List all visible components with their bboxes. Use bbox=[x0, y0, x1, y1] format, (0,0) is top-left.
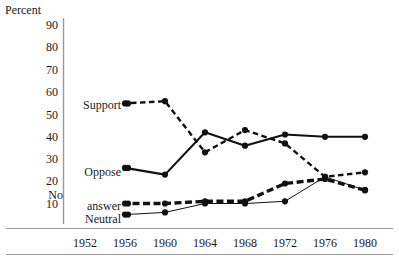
legend-marker bbox=[125, 100, 131, 106]
data-point bbox=[162, 98, 168, 104]
data-point bbox=[202, 149, 208, 155]
data-point bbox=[282, 140, 288, 146]
series-label-no-answer-line1: No bbox=[48, 188, 63, 202]
y-tick-20: 20 bbox=[46, 174, 58, 188]
y-tick-90: 90 bbox=[46, 18, 58, 32]
legend-marker bbox=[125, 165, 131, 171]
series-line bbox=[125, 132, 365, 174]
data-point bbox=[322, 174, 328, 180]
data-point bbox=[242, 200, 248, 206]
data-point bbox=[282, 180, 288, 186]
legend-marker bbox=[125, 200, 131, 206]
data-point bbox=[282, 131, 288, 137]
series-line bbox=[125, 101, 365, 177]
y-tick-60: 60 bbox=[46, 85, 58, 99]
data-point bbox=[202, 200, 208, 206]
data-point bbox=[242, 127, 248, 133]
x-tick-1972: 1972 bbox=[273, 236, 297, 250]
series-line bbox=[125, 177, 365, 215]
series-label-no-answer-line2: answer bbox=[87, 199, 121, 213]
x-tick-1952: 1952 bbox=[73, 236, 97, 250]
series-label-neutral: Neutral bbox=[85, 212, 122, 226]
x-tick-1976: 1976 bbox=[313, 236, 337, 250]
series-support bbox=[122, 98, 368, 180]
data-point bbox=[242, 143, 248, 149]
data-point bbox=[162, 209, 168, 215]
y-axis-title: Percent bbox=[5, 3, 42, 17]
x-tick-1964: 1964 bbox=[193, 236, 217, 250]
x-tick-1980: 1980 bbox=[353, 236, 377, 250]
legend-marker bbox=[125, 212, 131, 218]
series-layer bbox=[122, 98, 368, 218]
chart-canvas: Percent 90 80 70 60 50 40 30 20 10 1952 … bbox=[0, 0, 399, 261]
x-tick-1968: 1968 bbox=[233, 236, 257, 250]
y-tick-30: 30 bbox=[46, 152, 58, 166]
data-point bbox=[362, 134, 368, 140]
data-point bbox=[362, 187, 368, 193]
series-label-support: Support bbox=[83, 98, 122, 112]
series-oppose bbox=[122, 129, 368, 178]
y-tick-80: 80 bbox=[46, 40, 58, 54]
data-point bbox=[362, 169, 368, 175]
data-point bbox=[202, 129, 208, 135]
data-point bbox=[162, 172, 168, 178]
data-point bbox=[282, 198, 288, 204]
y-tick-50: 50 bbox=[46, 108, 58, 122]
x-tick-1960: 1960 bbox=[153, 236, 177, 250]
series-label-oppose: Oppose bbox=[84, 165, 121, 179]
y-tick-40: 40 bbox=[46, 130, 58, 144]
line-chart: Percent 90 80 70 60 50 40 30 20 10 1952 … bbox=[0, 0, 399, 261]
y-tick-70: 70 bbox=[46, 63, 58, 77]
data-point bbox=[162, 200, 168, 206]
data-point bbox=[322, 134, 328, 140]
x-tick-1956: 1956 bbox=[113, 236, 137, 250]
